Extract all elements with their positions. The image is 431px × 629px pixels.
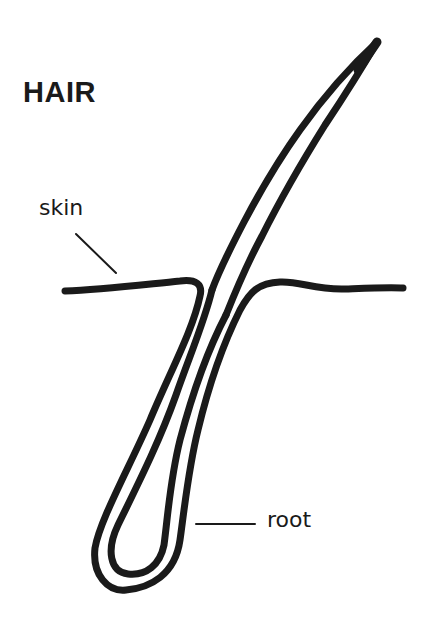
skin-leader-line: [76, 234, 116, 273]
hair-shaft-left-edge: [226, 42, 377, 315]
diagram-title: HAIR: [23, 78, 96, 107]
root-label: root: [267, 509, 311, 531]
hair-diagram: HAIR skin root: [0, 0, 431, 629]
root-sheath-inner: [111, 290, 226, 574]
skin-surface-left: [65, 281, 403, 591]
skin-label: skin: [39, 197, 83, 219]
